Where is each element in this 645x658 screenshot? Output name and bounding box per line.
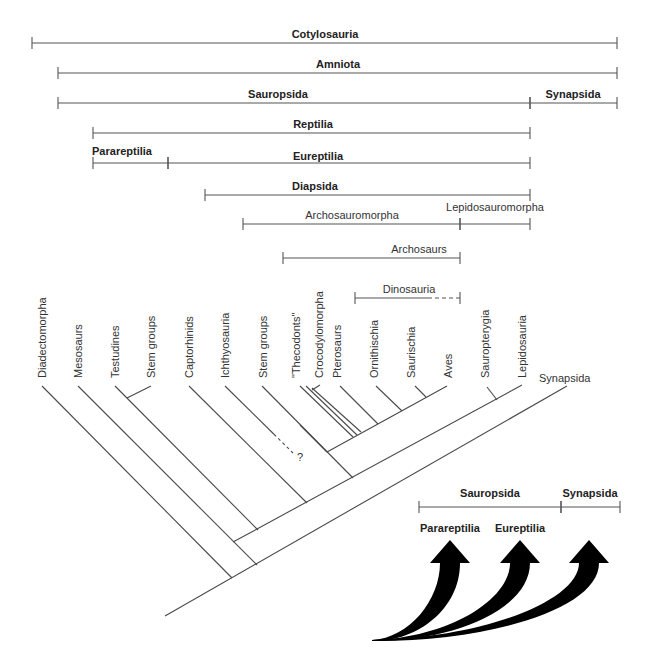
taxon-label-mesosaurs: Mesosaurs [72, 324, 84, 378]
inset-synapsida: Synapsida [561, 487, 620, 513]
taxon-label-synapsida: Synapsida [539, 372, 591, 384]
taxon-label-diadectomorpha: Diadectomorpha [36, 296, 48, 378]
ornithischia-branch [376, 386, 402, 411]
clade-label: Cotylosauria [292, 28, 360, 40]
reptile-axis [233, 385, 522, 542]
testudines-branch [115, 386, 258, 530]
taxon-labels: DiadectomorphaMesosaursTestudinesStem gr… [36, 290, 591, 384]
taxon-label-thecodonts: "Thecodonts" [290, 313, 302, 378]
ichthyosauria-branch [225, 386, 274, 434]
clade-label: Parareptilia [92, 145, 153, 157]
inset-diagram: SauropsidaSynapsidaParareptiliaEureptili… [372, 487, 620, 641]
uncertain-mark: ? [297, 451, 303, 463]
clade-bar-cotylosauria: Cotylosauria [32, 28, 617, 49]
clade-bar-amniota: Amniota [58, 58, 617, 79]
taxon-label-captorhinids: Captorhinids [183, 316, 195, 378]
clade-bar-archosauromorpha: Archosauromorpha [243, 209, 460, 230]
stem-groups-1-branch [127, 386, 151, 398]
clade-label: Archosauromorpha [305, 209, 399, 221]
cladogram-figure: CotylosauriaAmniotaSauropsidaSynapsidaRe… [0, 0, 645, 658]
inset-bar-label: Synapsida [562, 487, 618, 499]
clade-label: Eureptilia [293, 150, 344, 162]
thecodont-branch-b [306, 386, 357, 435]
thecodont-branch-c [312, 388, 361, 432]
clade-label: Reptilia [293, 118, 334, 130]
inset-eureptilia: Eureptilia [495, 522, 546, 534]
diadectomorpha-branch [42, 386, 232, 578]
inset-sauropsida: Sauropsida [419, 487, 561, 513]
taxon-label-testudines: Testudines [109, 325, 121, 378]
sauropterygia-branch [487, 387, 497, 400]
clade-label: Dinosauria [383, 283, 436, 295]
thecodont-branch-a [300, 386, 353, 437]
inset-parareptilia: Parareptilia [420, 522, 481, 534]
saurischia-branch [415, 386, 426, 397]
taxon-label-pterosaurs: Pterosaurs [331, 324, 343, 378]
clade-label: Diapsida [292, 180, 339, 192]
taxon-label-aves: Aves [442, 353, 454, 378]
taxon-label-stem-groups-1: Stem groups [145, 315, 157, 378]
inset-bar-label: Sauropsida [460, 487, 521, 499]
mesosaurs-branch [78, 386, 257, 565]
taxon-label-crocodylomorpha: Crocodylomorpha [313, 290, 325, 378]
captorhinids-branch [189, 386, 307, 503]
taxon-label-stem-groups-2: Stem groups [257, 315, 269, 378]
cladogram-svg: CotylosauriaAmniotaSauropsidaSynapsidaRe… [0, 0, 645, 658]
clade-bar-parareptilia: Parareptilia [92, 145, 168, 169]
clade-bar-sauropsida: Sauropsida [58, 88, 530, 109]
crocodylomorpha-branch [312, 385, 320, 390]
archosaur-stem-link [300, 425, 327, 452]
clade-bar-lepidosauromorpha: Lepidosauromorpha [446, 201, 545, 230]
clade-bar-diapsida: Diapsida [205, 180, 530, 201]
ichthyosauria-branch-uncertain [274, 434, 293, 453]
clade-bar-reptilia: Reptilia [93, 118, 530, 139]
clade-bar-dinosauria: Dinosauria [355, 283, 460, 304]
taxon-label-ichthyosauria: Ichthyosauria [219, 312, 231, 378]
clade-label: Lepidosauromorpha [446, 201, 545, 213]
clade-bar-eureptilia: Eureptilia [168, 150, 530, 169]
clade-bar-archosaurs: Archosaurs [283, 243, 460, 264]
clade-label: Synapsida [545, 88, 601, 100]
clade-bar-synapsida: Synapsida [530, 88, 617, 109]
taxon-label-lepidosauria: Lepidosauria [516, 314, 528, 378]
clade-bars: CotylosauriaAmniotaSauropsidaSynapsidaRe… [32, 28, 617, 304]
clade-label: Sauropsida [248, 88, 309, 100]
taxon-label-saurischia: Saurischia [405, 326, 417, 378]
taxon-label-sauropterygia: Sauropterygia [479, 309, 491, 378]
taxon-label-ornithischia: Ornithischia [368, 319, 380, 378]
synapsida-arrow-icon [372, 540, 609, 641]
clade-label: Archosaurs [391, 243, 447, 255]
tree-branches: ? [42, 385, 567, 616]
clade-label: Amniota [316, 58, 361, 70]
